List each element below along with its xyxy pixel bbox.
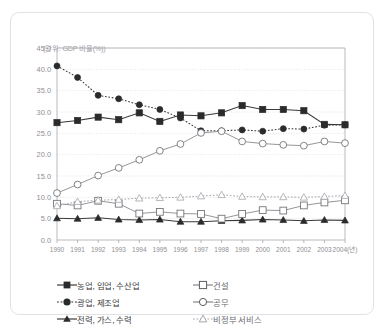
data-point-marker	[156, 147, 163, 154]
y-axis-tick-label: 0.0	[41, 236, 51, 245]
data-point-marker	[157, 106, 163, 112]
data-point-marker	[301, 108, 307, 114]
data-point-marker	[54, 190, 61, 197]
data-point-marker	[116, 117, 122, 123]
data-point-marker	[198, 211, 205, 218]
data-point-marker	[54, 120, 60, 126]
y-axis-tick-label: 10.0	[37, 193, 51, 202]
series-line	[57, 131, 345, 193]
data-point-marker	[75, 74, 81, 80]
data-point-marker	[280, 207, 287, 214]
data-point-marker	[115, 164, 122, 171]
data-point-marker	[136, 210, 143, 217]
x-axis-tick-label: 1991	[70, 246, 85, 253]
data-point-marker	[116, 96, 122, 102]
data-point-marker	[95, 114, 101, 120]
y-axis-tick-label: 30.0	[37, 108, 51, 117]
data-point-marker	[259, 207, 266, 214]
data-point-marker	[239, 103, 245, 109]
data-point-marker	[260, 128, 266, 134]
data-point-marker	[218, 110, 224, 116]
x-axis-tick-label: 1998	[214, 246, 229, 253]
data-point-marker	[280, 141, 287, 148]
x-axis-tick-label: 2004(년)	[333, 245, 358, 254]
x-axis-tick-label: 1994	[132, 246, 147, 253]
data-point-marker	[74, 117, 80, 123]
series-open-circle	[54, 128, 349, 197]
y-axis-tick-label: 25.0	[37, 129, 51, 138]
chart-svg: 45.040.035.030.025.020.015.010.05.00.019…	[0, 0, 387, 329]
data-point-marker	[321, 138, 328, 145]
data-point-marker	[280, 106, 286, 112]
data-point-marker	[239, 138, 246, 145]
y-axis-tick-label: 35.0	[37, 86, 51, 95]
data-point-marker	[136, 110, 142, 116]
x-axis-tick-label: 1997	[194, 246, 209, 253]
data-point-marker	[342, 140, 349, 147]
data-point-marker	[74, 198, 81, 204]
x-axis-tick-label: 1996	[173, 246, 188, 253]
series-line	[57, 66, 345, 131]
data-point-marker	[239, 127, 245, 133]
data-point-marker	[321, 193, 328, 199]
data-point-marker	[198, 113, 204, 119]
x-axis-tick-label: 2000	[255, 246, 270, 253]
data-point-marker	[321, 122, 327, 128]
data-point-marker	[95, 172, 102, 179]
data-point-marker	[177, 115, 183, 121]
data-point-marker	[95, 92, 101, 98]
x-axis-tick-label: 1999	[235, 246, 250, 253]
data-point-marker	[157, 118, 163, 124]
data-point-marker	[218, 215, 225, 222]
data-point-marker	[321, 199, 328, 206]
data-point-marker	[301, 126, 307, 132]
x-axis-tick-label: 1995	[153, 246, 168, 253]
series-filled-circle	[54, 63, 348, 134]
data-point-marker	[136, 102, 142, 108]
data-point-marker	[239, 211, 246, 218]
data-point-marker	[259, 140, 266, 147]
data-point-marker	[218, 128, 225, 135]
data-point-marker	[54, 63, 60, 69]
x-axis-tick-label: 2003	[317, 246, 332, 253]
x-axis-tick-label: 2001	[276, 246, 291, 253]
x-axis-tick-label: 1992	[91, 246, 106, 253]
x-axis-tick-label: 2002	[297, 246, 312, 253]
data-point-marker	[177, 210, 184, 217]
data-point-marker	[198, 130, 205, 137]
data-point-marker	[300, 142, 307, 149]
data-point-marker	[177, 141, 184, 148]
data-point-marker	[239, 193, 246, 199]
series-filled-square	[54, 103, 348, 128]
y-axis-tick-label: 40.0	[37, 65, 51, 74]
data-point-marker	[341, 192, 348, 198]
y-axis-tick-label: 5.0	[41, 214, 51, 223]
y-axis-tick-label: 15.0	[37, 172, 51, 181]
data-point-marker	[260, 106, 266, 112]
x-axis-tick-label: 1993	[111, 246, 126, 253]
plot-area: 45.040.035.030.025.020.015.010.05.00.019…	[0, 0, 387, 329]
x-axis-tick-label: 1990	[50, 246, 65, 253]
data-point-marker	[342, 122, 348, 128]
data-point-marker	[300, 202, 307, 209]
y-axis-tick-label: 45.0	[37, 44, 51, 53]
data-point-marker	[74, 181, 81, 188]
data-point-marker	[156, 208, 163, 215]
y-axis-tick-label: 20.0	[37, 150, 51, 159]
data-point-marker	[136, 156, 143, 163]
data-point-marker	[218, 191, 225, 197]
data-point-marker	[280, 126, 286, 132]
